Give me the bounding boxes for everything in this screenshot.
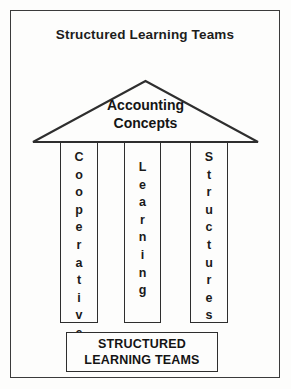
pillar-letter: n <box>139 265 147 283</box>
base-box: STRUCTURED LEARNING TEAMS <box>66 332 218 372</box>
pillar-letter: r <box>205 272 213 290</box>
pillar-letter: c <box>205 219 213 237</box>
pillar-cooperative-letters: C o o p e r a t i v e <box>74 149 83 343</box>
pillar-letter: t <box>205 237 213 255</box>
pillar-letter: r <box>74 237 83 255</box>
pillar-structures: S t r u c t u r e s <box>190 142 228 323</box>
pillar-letter: o <box>74 184 83 202</box>
pillar-letter: p <box>74 202 83 220</box>
base-label-line-2: LEARNING TEAMS <box>84 352 199 368</box>
base-label-line-1: STRUCTURED <box>98 336 186 352</box>
pillar-letter: t <box>74 272 83 290</box>
pillar-letter: e <box>139 177 147 195</box>
pillar-letter: i <box>139 247 147 265</box>
pillar-letter: L <box>139 159 147 177</box>
pillar-letter: u <box>205 255 213 273</box>
pillar-learning-letters: L e a r n i n g <box>139 149 147 300</box>
pillar-letter: s <box>205 307 213 325</box>
pillar-letter: n <box>139 229 147 247</box>
page-title: Structured Learning Teams <box>10 27 280 42</box>
roof-label-line-2: Concepts <box>30 114 261 132</box>
pillar-letter: e <box>74 219 83 237</box>
pillar-letter: S <box>205 149 213 167</box>
figure-canvas: Structured Learning Teams Accounting Con… <box>0 0 291 389</box>
pillar-cooperative: C o o p e r a t i v e <box>60 142 98 323</box>
pillar-letter: u <box>205 202 213 220</box>
pillar-letter: a <box>74 255 83 273</box>
pillar-letter: i <box>74 290 83 308</box>
pillar-letter: v <box>74 307 83 325</box>
roof-label-line-1: Accounting <box>30 96 261 114</box>
pillar-letter: g <box>139 282 147 300</box>
pillar-structures-letters: S t r u c t u r e s <box>205 149 213 325</box>
pillar-learning: L e a r n i n g <box>124 142 161 323</box>
pillar-letter: r <box>139 212 147 230</box>
pillar-letter: e <box>205 290 213 308</box>
pillar-letter: r <box>205 184 213 202</box>
roof-label: Accounting Concepts <box>30 96 261 132</box>
pillar-letter: a <box>139 194 147 212</box>
pillar-letter: t <box>205 167 213 185</box>
pillar-letter: o <box>74 167 83 185</box>
pillar-letter: C <box>74 149 83 167</box>
